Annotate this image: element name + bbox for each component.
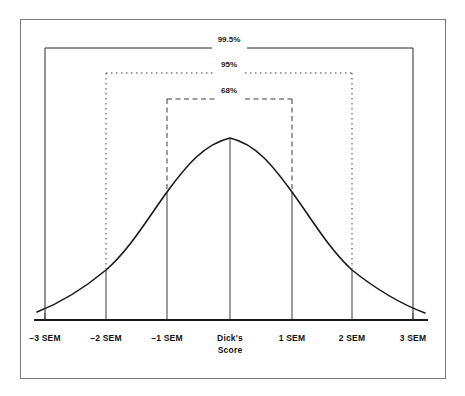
- normal-distribution-chart: 99.5% 95% 68% –3 SEM –2 SEM –1 SEM Dick'…: [0, 0, 465, 396]
- interval-95-label: 95%: [221, 60, 237, 69]
- figure-border: [21, 20, 446, 379]
- x-tick-label-pos2-sem: 2 SEM: [339, 333, 366, 343]
- x-tick-label-pos1-sem: 1 SEM: [279, 333, 306, 343]
- x-tick-label-center-score-line1: Dick's: [217, 333, 243, 343]
- x-tick-label-neg1-sem: –1 SEM: [151, 333, 182, 343]
- figure-container: 99.5% 95% 68% –3 SEM –2 SEM –1 SEM Dick'…: [0, 0, 465, 396]
- x-tick-label-neg3-sem: –3 SEM: [29, 333, 60, 343]
- x-tick-label-center-score-line2: Score: [218, 345, 243, 355]
- interval-68-label: 68%: [221, 86, 237, 95]
- interval-99-5-label: 99.5%: [218, 35, 241, 44]
- x-tick-label-pos3-sem: 3 SEM: [400, 333, 427, 343]
- x-tick-label-neg2-sem: –2 SEM: [90, 333, 121, 343]
